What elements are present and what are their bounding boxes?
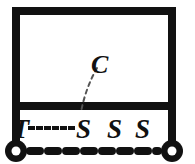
label-top-member: C (91, 50, 109, 79)
label-mid-node-2: S (107, 114, 122, 144)
right-post (168, 7, 176, 141)
figure-root: C T S S S (0, 0, 195, 164)
label-left-node: T (12, 113, 31, 144)
label-mid-node-1: S (76, 114, 91, 144)
frame-diagram-svg: C T S S S (0, 0, 195, 164)
frame-top-chord (12, 7, 176, 15)
label-mid-node-3: S (135, 114, 150, 144)
crossbeam (12, 102, 176, 110)
right-pin-support-icon (161, 140, 183, 162)
